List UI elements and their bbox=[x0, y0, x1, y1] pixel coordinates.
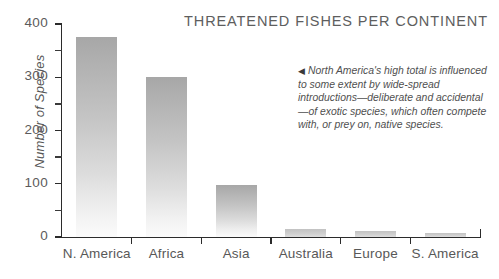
left-triangle-icon: ◀ bbox=[298, 66, 305, 76]
chart-figure: THREATENED FISHES PER CONTINENT Number o… bbox=[0, 0, 499, 279]
y-axis-tick-label: 400 bbox=[8, 15, 48, 30]
y-axis-tick bbox=[55, 77, 62, 78]
x-axis-category-label: Europe bbox=[341, 246, 411, 261]
x-axis-tick bbox=[340, 237, 341, 244]
annotation-text: North America's high total is influenced… bbox=[298, 65, 487, 130]
annotation-north-america: ◀North America's high total is influence… bbox=[298, 64, 488, 131]
y-axis-title: Number of Species bbox=[32, 42, 47, 182]
x-axis-category-label: Australia bbox=[271, 246, 341, 261]
bar bbox=[285, 229, 326, 237]
x-axis-tick bbox=[131, 237, 132, 244]
y-axis-tick bbox=[55, 130, 62, 131]
bar bbox=[425, 233, 466, 237]
x-axis-category-label: Africa bbox=[132, 246, 202, 261]
y-axis-tick bbox=[55, 183, 62, 184]
y-axis-tick-label: 0 bbox=[8, 228, 48, 243]
y-axis-minor-tick bbox=[55, 103, 62, 104]
y-axis-minor-tick bbox=[55, 156, 62, 157]
y-axis-minor-tick bbox=[55, 50, 62, 51]
bar bbox=[146, 77, 187, 237]
y-axis-tick-label: 100 bbox=[8, 175, 48, 190]
bar bbox=[76, 37, 117, 237]
y-axis-tick bbox=[55, 236, 62, 237]
bar bbox=[216, 185, 257, 237]
bar bbox=[355, 231, 396, 237]
x-axis-tick bbox=[410, 237, 411, 244]
x-axis-category-label: S. America bbox=[410, 246, 480, 261]
x-axis-tick bbox=[201, 237, 202, 244]
x-axis-category-label: N. America bbox=[62, 246, 132, 261]
x-axis-category-label: Asia bbox=[201, 246, 271, 261]
y-axis-minor-tick bbox=[55, 210, 62, 211]
x-axis-tick bbox=[270, 237, 271, 244]
y-axis-tick-label: 300 bbox=[8, 68, 48, 83]
y-axis-tick bbox=[55, 23, 62, 24]
y-axis-tick-label: 200 bbox=[8, 122, 48, 137]
